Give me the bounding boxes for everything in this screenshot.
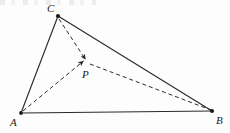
vertex-label-A: A [9,116,17,128]
vertex-label-C: C [47,2,55,14]
triangle-solid-sides [21,16,212,113]
vertex-label-P: P [81,68,89,80]
edge-PB [90,64,211,110]
edge-AC [21,16,58,113]
vertex-labels: C A B P [9,2,223,128]
edge-AP [23,61,84,111]
geometry-figure-canvas: C A B P [0,0,230,133]
edge-CB [58,16,212,111]
vertex-dot-A [19,111,23,115]
vertex-dot-C [56,14,60,18]
edge-AB [21,111,212,113]
triangle-diagram-svg: C A B P [0,0,230,133]
vertex-dot-B [210,109,214,113]
vertex-label-B: B [216,114,223,126]
